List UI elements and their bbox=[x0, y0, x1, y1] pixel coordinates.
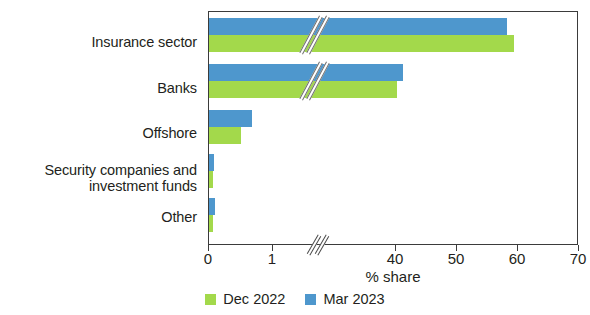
x-axis-break-symbol bbox=[305, 234, 339, 256]
bar-other-dec-2022 bbox=[209, 215, 213, 232]
y-axis-label-offshore: Offshore bbox=[142, 125, 197, 141]
legend: Dec 2022 Mar 2023 bbox=[0, 292, 590, 307]
bars-layer bbox=[209, 12, 577, 244]
y-axis-label-security-companies-and-investment-funds: Security companies and investment funds bbox=[44, 162, 197, 194]
bar-offshore-mar-2023 bbox=[209, 110, 252, 127]
x-axis-tick-label-0: 0 bbox=[204, 250, 212, 267]
legend-swatch-dec-2022 bbox=[205, 294, 216, 305]
x-axis-tick-label-1: 1 bbox=[268, 250, 276, 267]
bar-banks-mar-2023 bbox=[209, 64, 403, 81]
y-axis-label-insurance-sector: Insurance sector bbox=[91, 34, 197, 50]
x-axis-tick-label-40: 40 bbox=[387, 250, 404, 267]
bar-other-mar-2023 bbox=[209, 198, 215, 215]
bar-insurance-sector-mar-2023 bbox=[209, 18, 507, 35]
bar-security-companies-and-investment-funds-dec-2022 bbox=[209, 171, 213, 188]
x-axis-title: % share bbox=[208, 268, 578, 285]
bar-security-companies-and-investment-funds-mar-2023 bbox=[209, 154, 214, 171]
bar-insurance-sector-dec-2022 bbox=[209, 35, 514, 52]
bar-offshore-dec-2022 bbox=[209, 127, 241, 144]
y-axis-label-banks: Banks bbox=[157, 80, 197, 96]
x-axis-tick-label-70: 70 bbox=[570, 250, 587, 267]
y-axis-category-labels: Insurance sector Banks Offshore Security… bbox=[0, 8, 203, 245]
x-axis-tick-label-50: 50 bbox=[448, 250, 465, 267]
bar-chart-figure: Insurance sector Banks Offshore Security… bbox=[0, 0, 590, 315]
legend-item-mar-2023: Mar 2023 bbox=[305, 292, 384, 307]
y-axis-label-other: Other bbox=[161, 209, 197, 225]
plot-area bbox=[208, 11, 578, 245]
legend-swatch-mar-2023 bbox=[305, 294, 316, 305]
legend-item-dec-2022: Dec 2022 bbox=[205, 292, 285, 307]
bar-banks-dec-2022 bbox=[209, 81, 397, 98]
x-axis-title-wrap: % share bbox=[208, 0, 578, 1]
legend-label-mar-2023: Mar 2023 bbox=[323, 292, 384, 307]
legend-label-dec-2022: Dec 2022 bbox=[223, 292, 285, 307]
x-axis-tick-label-60: 60 bbox=[509, 250, 526, 267]
